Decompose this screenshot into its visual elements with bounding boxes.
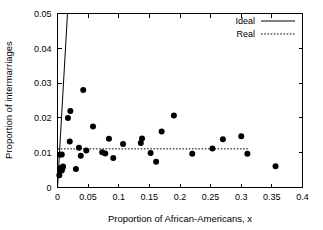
data-point bbox=[153, 159, 159, 165]
x-tick-label: 0.4 bbox=[296, 192, 309, 202]
data-point bbox=[73, 166, 79, 172]
y-tick-label: 0.03 bbox=[34, 78, 52, 88]
y-axis-title: Proportion of intermarriages bbox=[3, 41, 14, 159]
y-tick-label: 0.02 bbox=[34, 113, 52, 123]
data-point bbox=[78, 153, 84, 159]
data-point bbox=[189, 151, 195, 157]
chart-canvas: 00.050.10.150.20.250.30.350.4 00.010.020… bbox=[0, 0, 323, 230]
x-tick-label: 0.1 bbox=[112, 192, 125, 202]
y-axis-tick-labels: 00.010.020.030.040.05 bbox=[34, 9, 52, 193]
x-axis-title: Proportion of African-Americans, x bbox=[108, 213, 252, 224]
x-tick-label: 0 bbox=[55, 192, 60, 202]
x-tick-label: 0.15 bbox=[141, 192, 159, 202]
data-point bbox=[80, 87, 86, 93]
ideal-line-series bbox=[58, 14, 68, 188]
y-axis-ticks bbox=[58, 14, 303, 188]
data-point-series bbox=[56, 87, 278, 178]
data-point bbox=[244, 151, 250, 157]
y-tick-label: 0 bbox=[46, 183, 51, 193]
data-point bbox=[171, 112, 177, 118]
scatter-chart-figure: 00.050.10.150.20.250.30.350.4 00.010.020… bbox=[0, 0, 323, 230]
data-point bbox=[90, 124, 96, 130]
x-tick-label: 0.3 bbox=[235, 192, 248, 202]
x-tick-label: 0.2 bbox=[174, 192, 187, 202]
x-tick-label: 0.05 bbox=[79, 192, 97, 202]
x-axis-ticks bbox=[58, 14, 303, 188]
data-point bbox=[60, 164, 66, 170]
data-point bbox=[220, 136, 226, 142]
data-point bbox=[106, 136, 112, 142]
data-point bbox=[59, 151, 65, 157]
data-point bbox=[273, 163, 279, 169]
data-point bbox=[110, 155, 116, 161]
y-tick-label: 0.04 bbox=[34, 44, 52, 54]
y-tick-label: 0.01 bbox=[34, 148, 52, 158]
data-point bbox=[67, 139, 73, 145]
data-point bbox=[120, 141, 126, 147]
y-tick-label: 0.05 bbox=[34, 9, 52, 19]
x-axis-tick-labels: 00.050.10.150.20.250.30.350.4 bbox=[55, 192, 309, 202]
data-point bbox=[76, 145, 82, 151]
legend-item-ideal-label: Ideal bbox=[235, 16, 255, 26]
legend-item-real-label: Real bbox=[236, 29, 255, 39]
data-point bbox=[102, 150, 108, 156]
data-point bbox=[209, 146, 215, 152]
data-point bbox=[159, 128, 165, 134]
data-point bbox=[83, 148, 89, 154]
plot-frame bbox=[58, 14, 303, 188]
ideal-line bbox=[58, 14, 68, 188]
x-tick-label: 0.35 bbox=[263, 192, 281, 202]
data-point bbox=[238, 133, 244, 139]
chart-legend: Ideal Real bbox=[235, 16, 295, 39]
data-point bbox=[148, 150, 154, 156]
x-tick-label: 0.25 bbox=[202, 192, 220, 202]
data-point bbox=[65, 115, 71, 121]
data-point bbox=[139, 135, 145, 141]
data-point bbox=[67, 108, 73, 114]
